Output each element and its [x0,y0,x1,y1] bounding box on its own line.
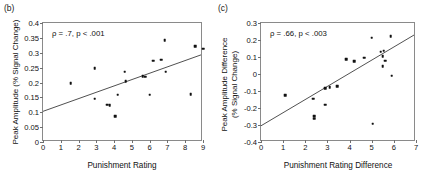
stats-annotation-c: ρ = .66, p < .003 [270,29,327,38]
regression-line-b [43,23,201,140]
panel-b: (b) Peak Amplitude (% Signal Change) 00.… [0,0,214,188]
x-tick-label-1-0: 0 [259,143,263,152]
y-tick-1-6 [258,40,261,41]
panel-label-c: (c) [218,3,228,13]
panel-label-b: (b) [4,3,14,13]
x-tick-label-1-2: 2 [303,143,307,152]
data-point [144,76,147,79]
panel-c: (c) Peak Amplitude Difference (% Signal … [214,0,428,188]
data-point [152,59,155,62]
data-point [163,39,166,42]
y-tick-label-1-6: 0.2 [246,36,257,45]
y-tick-0-6 [40,53,43,54]
data-point [370,36,373,39]
data-point [69,82,72,85]
y-axis-label-b: Peak Amplitude (% Signal Change) [11,17,21,147]
y-tick-label-1-1: -0.3 [244,121,257,130]
y-tick-0-3 [40,97,43,98]
data-point [328,86,331,89]
x-tick-label-0-7: 7 [165,143,169,152]
y-tick-label-0-0: 0 [35,138,39,147]
data-point [123,70,126,73]
x-tick-label-0-5: 5 [130,143,134,152]
data-point [194,45,197,48]
y-axis-label-c-line1: Peak Amplitude Difference [220,17,230,152]
data-point [189,93,192,96]
y-tick-1-3 [258,91,261,92]
data-point [93,67,96,70]
y-tick-label-0-7: 0.35 [24,33,39,42]
data-point [324,103,327,106]
y-tick-0-7 [40,38,43,39]
y-tick-1-5 [258,57,261,58]
data-point [381,65,384,68]
y-tick-label-0-5: 0.25 [24,63,39,72]
figure-container: (b) Peak Amplitude (% Signal Change) 00.… [0,0,428,188]
y-axis-label-c-line2: (% Signal Change) [230,17,240,152]
y-tick-0-5 [40,68,43,69]
data-point [108,104,111,107]
y-tick-1-4 [258,74,261,75]
y-tick-label-1-3: -0.1 [244,87,257,96]
y-tick-label-1-7: 0.3 [246,19,257,28]
x-tick-label-1-7: 7 [414,143,418,152]
y-axis-label-c: Peak Amplitude Difference (% Signal Chan… [220,17,239,152]
data-point [336,85,339,88]
data-point [284,94,287,97]
y-tick-0-8 [40,23,43,24]
regression-line-c [261,23,414,140]
x-tick-label-1-3: 3 [325,143,329,152]
x-tick-label-0-6: 6 [148,143,152,152]
y-tick-label-0-6: 0.3 [28,48,39,57]
data-point [93,97,96,100]
data-point [312,98,315,101]
y-tick-0-2 [40,112,43,113]
data-point [124,80,127,83]
data-point [324,87,327,90]
data-point [114,115,117,118]
y-tick-label-1-5: 0.1 [246,53,257,62]
y-tick-label-0-4: 0.2 [28,78,39,87]
x-tick-label-0-1: 1 [59,143,63,152]
y-tick-label-1-0: -0.4 [244,138,257,147]
y-tick-0-4 [40,83,43,84]
x-tick-label-0-8: 8 [183,143,187,152]
data-point [164,70,167,73]
y-tick-1-2 [258,108,261,109]
data-point [383,49,386,52]
x-tick-label-0-0: 0 [41,143,45,152]
data-point [160,58,163,61]
data-point [390,74,393,77]
data-point [363,56,366,59]
x-tick-label-1-4: 4 [347,143,351,152]
plot-area-b: 00.050.10.150.20.250.30.350.40123456789 [42,22,202,141]
y-tick-label-1-2: -0.2 [244,104,257,113]
data-point [384,59,387,62]
data-point [345,58,348,61]
data-point [353,60,356,63]
x-tick-label-0-2: 2 [76,143,80,152]
x-tick-label-1-1: 1 [281,143,285,152]
data-point [202,48,205,51]
data-point [372,122,375,125]
x-tick-label-1-5: 5 [370,143,374,152]
y-tick-label-0-1: 0.05 [24,123,39,132]
y-tick-1-1 [258,125,261,126]
y-tick-label-0-8: 0.4 [28,19,39,28]
data-point [148,93,151,96]
y-tick-label-0-2: 0.1 [28,108,39,117]
y-tick-label-1-4: 0 [253,70,257,79]
data-point [389,35,392,38]
y-tick-0-1 [40,127,43,128]
y-tick-label-0-3: 0.15 [24,93,39,102]
x-axis-label-b: Punishment Rating [42,161,202,170]
data-point [379,50,382,53]
stats-annotation-b: ρ = .7, p < .001 [52,29,105,38]
x-tick-label-0-4: 4 [112,143,116,152]
x-tick-label-0-9: 9 [201,143,205,152]
plot-area-c: -0.4-0.3-0.2-0.100.10.20.301234567 [260,22,415,141]
x-tick-label-1-6: 6 [392,143,396,152]
y-tick-1-7 [258,23,261,24]
data-point [381,55,384,58]
data-point [116,93,119,96]
